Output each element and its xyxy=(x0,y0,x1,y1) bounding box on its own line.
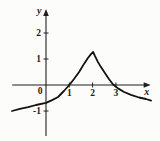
function-graph-figure: 123-1120yx xyxy=(0,0,160,141)
x-axis-label: x xyxy=(143,86,149,97)
x-tick-label: 2 xyxy=(90,88,95,98)
graph-canvas: 123-1120yx xyxy=(0,0,160,141)
function-curve xyxy=(12,52,151,111)
y-axis-arrowhead xyxy=(43,9,49,16)
y-tick-label: 2 xyxy=(36,28,41,38)
y-axis-label: y xyxy=(36,5,42,16)
x-tick-label: 1 xyxy=(67,88,72,98)
y-tick-label: 1 xyxy=(36,54,41,64)
y-tick-label: -1 xyxy=(33,106,41,116)
origin-label: 0 xyxy=(38,86,43,96)
